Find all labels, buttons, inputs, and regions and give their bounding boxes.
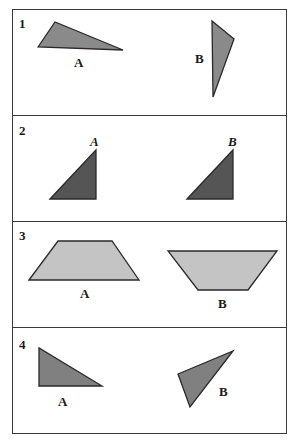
shape-2b-right-triangle <box>187 150 233 199</box>
shape-1a-triangle <box>38 22 123 50</box>
figure-canvas: 1 A B 2 A B 3 A B 4 A B <box>0 0 298 445</box>
shape-label-3b: B <box>218 296 227 311</box>
shape-label-1a: A <box>74 55 84 70</box>
panel-1: 1 A B <box>19 16 234 97</box>
panel-4: 4 A B <box>19 337 233 409</box>
panel-2: 2 A B <box>19 123 237 199</box>
shape-2a-right-triangle <box>50 150 96 199</box>
panel-number: 1 <box>19 16 26 31</box>
shape-label-3a: A <box>80 286 90 301</box>
shape-label-2a: A <box>89 134 99 149</box>
shape-label-1b: B <box>195 51 204 66</box>
shape-label-4a: A <box>58 394 68 409</box>
panel-number: 3 <box>19 228 26 243</box>
shape-3a-trapezoid <box>29 241 139 280</box>
panel-number: 4 <box>19 337 26 352</box>
shape-3b-trapezoid <box>168 251 277 290</box>
shape-4a-triangle <box>39 348 102 386</box>
panel-3: 3 A B <box>19 228 277 311</box>
shape-1b-triangle <box>212 21 234 97</box>
panel-number: 2 <box>19 123 26 138</box>
shape-label-4b: B <box>219 384 228 399</box>
shape-label-2b: B <box>227 134 237 149</box>
